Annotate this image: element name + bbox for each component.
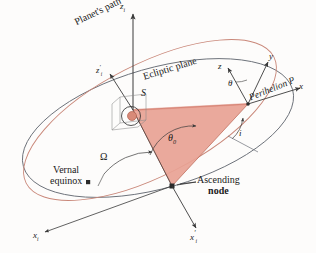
zi-prime-axis — [110, 74, 133, 110]
argument-perihelion-arc — [236, 80, 247, 82]
inclination-angle-arc — [228, 118, 258, 152]
orbital-diagram: zi z′i Planet's path Ecliptic plane z y … — [0, 0, 316, 253]
vernal-equinox-marker — [86, 180, 90, 184]
perihelion-axes — [228, 62, 300, 106]
diagram-canvas — [0, 0, 316, 253]
omega-angle-arc — [98, 152, 152, 186]
vernal-equinox-axis — [45, 180, 172, 232]
shaded-sector — [133, 104, 248, 186]
xi-prime-axis — [172, 186, 196, 228]
